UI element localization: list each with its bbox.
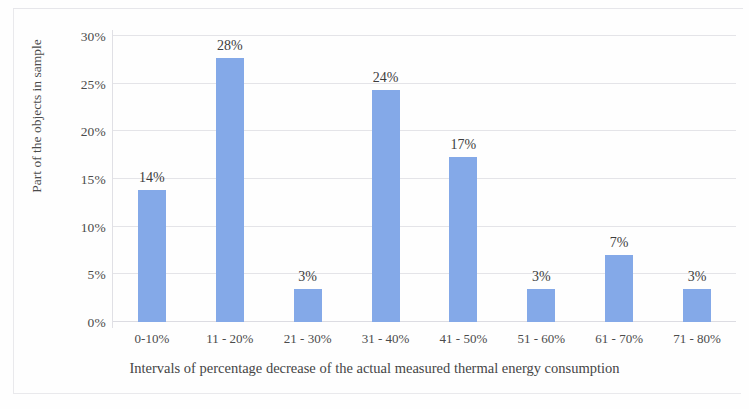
gridline bbox=[113, 273, 736, 274]
bar bbox=[605, 255, 633, 322]
figure-border-top bbox=[13, 8, 743, 9]
bar-value-label: 14% bbox=[112, 170, 192, 186]
x-axis-tick-label: 11 - 20% bbox=[185, 331, 275, 347]
bar-value-label: 24% bbox=[346, 70, 426, 86]
x-axis-tick-label: 51 - 60% bbox=[496, 331, 586, 347]
gridline bbox=[113, 226, 736, 227]
x-axis-tick-label: 61 - 70% bbox=[574, 331, 664, 347]
bar-chart-figure: Part of the objects in sample 0%5%10%15%… bbox=[0, 0, 749, 409]
x-axis-tick-label: 31 - 40% bbox=[341, 331, 431, 347]
gridline bbox=[113, 321, 736, 322]
bar bbox=[216, 58, 244, 322]
bar bbox=[683, 289, 711, 322]
y-axis-tick-label: 5% bbox=[46, 267, 106, 283]
bar-value-label: 3% bbox=[501, 269, 581, 285]
y-axis-tick-label: 20% bbox=[46, 124, 106, 140]
bar-value-label: 17% bbox=[423, 137, 503, 153]
bar-value-label: 3% bbox=[657, 269, 737, 285]
bar-value-label: 7% bbox=[579, 235, 659, 251]
gridline bbox=[113, 178, 736, 179]
y-axis-ticks: 0%5%10%15%20%25%30% bbox=[40, 36, 106, 322]
bar bbox=[527, 289, 555, 322]
plot-area: 14%28%3%24%17%3%7%3% bbox=[113, 36, 736, 322]
x-axis-tick-label: 21 - 30% bbox=[263, 331, 353, 347]
bar-value-label: 3% bbox=[268, 269, 348, 285]
bar bbox=[138, 190, 166, 323]
x-axis-title: Intervals of percentage decrease of the … bbox=[0, 360, 749, 377]
bar-value-label: 28% bbox=[190, 38, 270, 54]
y-axis-tick-label: 15% bbox=[46, 172, 106, 188]
x-axis-tick-label: 71 - 80% bbox=[652, 331, 742, 347]
bar bbox=[372, 90, 400, 322]
gridline bbox=[113, 35, 736, 36]
bar bbox=[294, 289, 322, 322]
bar bbox=[449, 157, 477, 322]
y-axis-tick-label: 0% bbox=[46, 315, 106, 331]
y-axis-tick-label: 25% bbox=[46, 77, 106, 93]
gridline bbox=[113, 130, 736, 131]
x-axis-tick-label: 0-10% bbox=[107, 331, 197, 347]
y-axis-tick-label: 10% bbox=[46, 220, 106, 236]
y-axis-tick-label: 30% bbox=[46, 29, 106, 45]
x-axis-tick-label: 41 - 50% bbox=[418, 331, 508, 347]
